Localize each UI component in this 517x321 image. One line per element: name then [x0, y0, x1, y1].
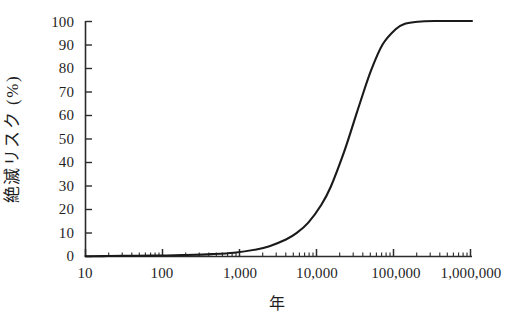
extinction-risk-chart: 100 90 80 70 60 50 40 30 20 10 0 10 100 …: [0, 0, 517, 321]
ytick-label-80: 80: [22, 60, 74, 77]
ytick-label-30: 30: [22, 178, 74, 195]
xtick-label-1000000: 1,000,000: [441, 265, 502, 282]
ytick-label-60: 60: [22, 107, 74, 124]
xtick-label-10: 10: [77, 265, 92, 282]
ytick-label-40: 40: [22, 154, 74, 171]
ytick-label-90: 90: [22, 37, 74, 54]
xtick-label-1000: 1,000: [223, 265, 257, 282]
x-axis-title: 年: [269, 290, 285, 314]
xtick-label-100: 100: [151, 265, 174, 282]
ytick-label-10: 10: [22, 225, 74, 242]
y-axis-ticks: [86, 22, 93, 257]
y-axis-title: 絶滅リスク (%): [0, 24, 23, 254]
ytick-label-100: 100: [22, 14, 74, 31]
ytick-label-50: 50: [22, 131, 74, 148]
ytick-label-70: 70: [22, 84, 74, 101]
xtick-label-10000: 10,000: [296, 265, 338, 282]
ytick-label-20: 20: [22, 201, 74, 218]
risk-curve-line: [86, 21, 473, 256]
ytick-label-0: 0: [22, 248, 74, 265]
xtick-label-100000: 100,000: [371, 265, 420, 282]
